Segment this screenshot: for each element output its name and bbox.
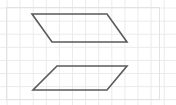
figure-container xyxy=(0,0,176,105)
geometry-figure-svg xyxy=(0,0,176,105)
